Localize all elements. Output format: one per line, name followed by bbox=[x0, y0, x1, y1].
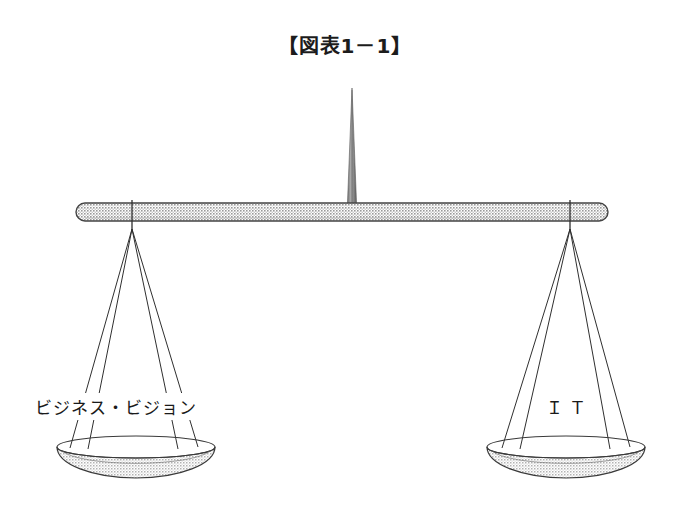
fulcrum-spike bbox=[347, 88, 356, 205]
balance-scale-illustration bbox=[0, 0, 690, 507]
right-pan bbox=[487, 436, 645, 478]
balance-beam bbox=[76, 203, 608, 221]
left-pan-rim bbox=[57, 436, 215, 458]
right-pan-bowl bbox=[487, 447, 645, 478]
left-pan-bowl bbox=[57, 447, 215, 478]
right-pan-label: ＩＴ bbox=[543, 393, 595, 420]
left-pan bbox=[57, 436, 215, 478]
figure-root: 【図表1－1】 bbox=[0, 0, 690, 507]
left-pan-label: ビジネス・ビジョン bbox=[32, 393, 200, 420]
right-pan-rim bbox=[487, 436, 645, 458]
